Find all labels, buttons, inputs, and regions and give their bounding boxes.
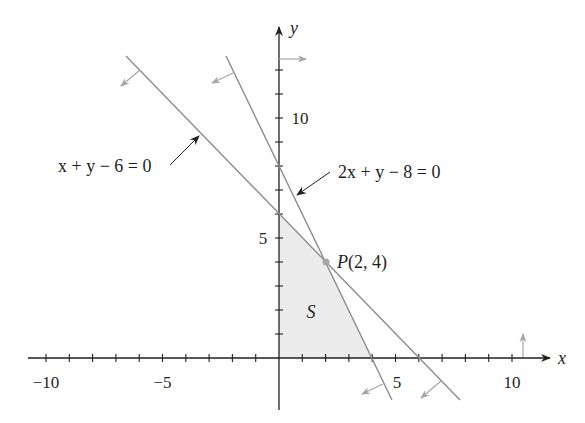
y-axis-label: y — [288, 18, 298, 38]
x-tick-label-neg10: −10 — [33, 373, 60, 392]
feasible-region-s — [279, 214, 372, 358]
half-plane-arrow-icon — [421, 381, 441, 398]
half-plane-arrow-icon — [121, 70, 140, 86]
feasible-region-diagram: −10 −5 5 10 x 5 10 y — [0, 0, 585, 423]
point-coords: (2, 4) — [348, 252, 387, 273]
half-plane-arrow-icon — [212, 73, 233, 83]
y-tick-label-5: 5 — [259, 229, 268, 248]
equation-text-1: x + y − 6 = 0 — [58, 156, 151, 176]
svg-text:P(2, 4): P(2, 4) — [336, 252, 387, 273]
point-name: P — [336, 252, 348, 272]
equation-label-line-1: x + y − 6 = 0 — [58, 136, 199, 176]
equation-text-2: 2x + y − 8 = 0 — [338, 162, 440, 182]
x-tick-label-neg5: −5 — [153, 373, 171, 392]
x-tick-label-5: 5 — [393, 373, 402, 392]
x-tick-label-10: 10 — [504, 373, 521, 392]
x-axis-label: x — [557, 348, 566, 368]
equation-label-line-2: 2x + y − 8 = 0 — [297, 162, 440, 195]
y-tick-label-10: 10 — [292, 109, 309, 128]
region-label-s: S — [307, 302, 316, 322]
point-p: P(2, 4) — [323, 252, 388, 273]
half-plane-arrow-icon — [362, 384, 383, 394]
